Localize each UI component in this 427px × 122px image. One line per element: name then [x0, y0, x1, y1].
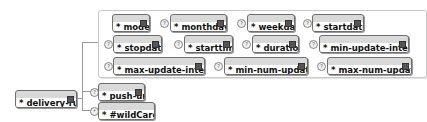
element-min-update-interval[interactable]: * min-update-interval duration	[319, 35, 409, 53]
optional-icon: ?	[174, 40, 183, 49]
element-starttime[interactable]: * starttime time	[184, 35, 233, 53]
element-min-num-updates[interactable]: * min-num-updates integer	[224, 57, 308, 75]
optional-icon: ?	[237, 19, 246, 28]
element-monthday[interactable]: * monthday NMTOKENS	[170, 14, 227, 32]
expand-icon[interactable]	[195, 63, 202, 70]
expand-icon[interactable]	[67, 96, 74, 103]
element-max-update-interval[interactable]: * max-update-interval duration	[113, 57, 205, 75]
expand-icon[interactable]	[298, 63, 305, 70]
element-wildcard[interactable]: * #wildCard	[98, 102, 155, 120]
element-mode[interactable]: * mode feature	[112, 14, 150, 32]
optional-icon: ?	[317, 62, 326, 71]
element-duration[interactable]: * duration duration	[252, 35, 299, 53]
connector	[82, 42, 83, 111]
optional-icon: ?	[309, 40, 318, 49]
optional-icon: ?	[214, 62, 223, 71]
optional-icon: ?	[303, 19, 312, 28]
optional-icon: ?	[104, 40, 113, 49]
optional-icon: ?	[104, 62, 113, 71]
element-startdate[interactable]: * startdate dateTime	[312, 14, 364, 32]
element-delivery-rule[interactable]: * delivery-rule delivery-ruleType	[15, 90, 77, 108]
optional-icon: ?	[242, 40, 251, 49]
element-max-num-updates[interactable]: * max-num-updates integer	[327, 57, 412, 75]
expand-icon[interactable]	[135, 89, 142, 96]
element-push-url[interactable]: * push-url urlAccessType	[98, 83, 145, 101]
optional-icon: ?	[160, 19, 169, 28]
expand-icon[interactable]	[285, 20, 292, 27]
element-weekday[interactable]: * weekday NMTOKENS	[247, 14, 295, 32]
connector	[82, 42, 98, 43]
expand-icon[interactable]	[402, 63, 409, 70]
element-stopdate[interactable]: * stopdate dateTime	[113, 35, 162, 53]
expand-icon[interactable]	[140, 20, 147, 27]
expand-icon[interactable]	[399, 41, 406, 48]
expand-icon[interactable]	[152, 41, 159, 48]
expand-icon[interactable]	[289, 41, 296, 48]
required-marker: *	[19, 98, 23, 108]
expand-icon[interactable]	[354, 20, 361, 27]
expand-icon[interactable]	[217, 20, 224, 27]
expand-icon[interactable]	[223, 41, 230, 48]
